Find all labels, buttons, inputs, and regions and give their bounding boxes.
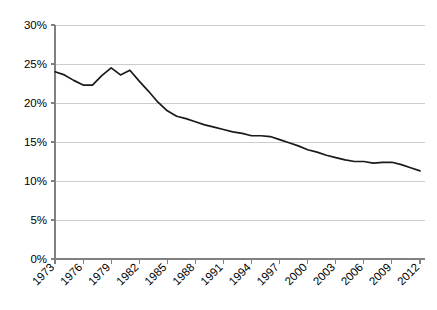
y-axis-tick-label: 10% — [24, 175, 47, 187]
x-axis-tick-label: 1979 — [86, 261, 113, 288]
y-axis-tick-label: 20% — [24, 97, 47, 109]
series-line — [55, 68, 420, 171]
chart-container: 0%5%10%15%20%25%30% 19731976197919821985… — [0, 0, 437, 310]
y-axis-tick-labels: 0%5%10%15%20%25%30% — [24, 19, 47, 265]
x-axis-tick-label: 1982 — [114, 261, 141, 288]
x-axis-tick-label: 2006 — [339, 261, 366, 288]
x-axis-tick-label: 2009 — [367, 261, 394, 288]
gridlines — [55, 25, 425, 259]
line-chart: 0%5%10%15%20%25%30% 19731976197919821985… — [0, 0, 437, 310]
x-axis-tick-label: 1994 — [226, 261, 253, 288]
y-axis-tick-label: 5% — [30, 214, 47, 226]
x-axis-tick-label: 1985 — [142, 261, 169, 288]
x-axis-tick-labels: 1973197619791982198519881991199419972000… — [30, 261, 422, 288]
x-axis-tick-label: 1997 — [254, 261, 281, 288]
x-axis-tick-label: 1991 — [198, 261, 225, 288]
y-axis-tick-label: 25% — [24, 58, 47, 70]
data-series — [55, 68, 420, 171]
x-axis — [55, 259, 425, 264]
x-axis-tick-label: 1976 — [58, 261, 85, 288]
x-axis-tick-label: 2012 — [395, 261, 422, 288]
x-axis-tick-label: 2003 — [311, 261, 338, 288]
y-axis-tick-label: 30% — [24, 19, 47, 31]
x-axis-tick-label: 1988 — [170, 261, 197, 288]
x-axis-tick-label: 2000 — [283, 261, 310, 288]
y-axis-tick-label: 15% — [24, 136, 47, 148]
y-axis — [51, 25, 55, 259]
